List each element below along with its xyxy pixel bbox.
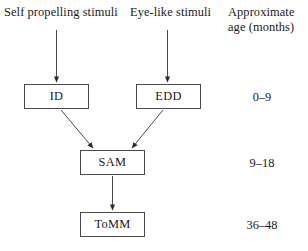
- arrow-id-to-sam: [61, 110, 93, 148]
- node-label-tomm: ToMM: [94, 217, 130, 232]
- age-value-row-id-edd: 0–9: [232, 90, 292, 105]
- node-label-id: ID: [50, 89, 64, 104]
- node-label-sam: SAM: [99, 155, 127, 170]
- age-column-header: Approximate age (months): [228, 5, 294, 35]
- node-label-edd: EDD: [155, 89, 181, 104]
- arrow-edd-to-sam: [132, 110, 163, 148]
- input-label-eye-like-stimuli: Eye-like stimuli: [130, 5, 211, 20]
- age-column-header-line2: age (months): [228, 20, 294, 35]
- node-box-sam: SAM: [80, 150, 145, 175]
- node-box-edd: EDD: [136, 84, 201, 109]
- node-box-tomm: ToMM: [80, 212, 145, 237]
- age-column-header-line1: Approximate: [228, 5, 294, 20]
- age-value-row-tomm: 36–48: [232, 218, 292, 233]
- input-label-self-propelling-stimuli: Self propelling stimuli: [4, 5, 118, 20]
- connector-layer: [0, 0, 308, 251]
- age-value-row-sam: 9–18: [232, 156, 292, 171]
- node-box-id: ID: [24, 84, 89, 109]
- mindreading-model-diagram: Self propelling stimuli Eye-like stimuli…: [0, 0, 308, 251]
